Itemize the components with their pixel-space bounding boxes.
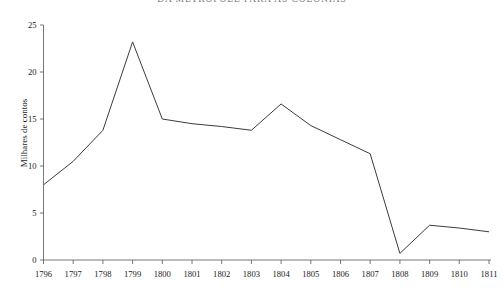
y-tick-label: 0 [32,255,36,265]
plot-area: 0510152025 17961797179817991800180118021… [0,0,504,294]
x-tick-label: 1798 [94,269,111,279]
series-polyline [44,42,490,254]
x-tick-label: 1801 [183,269,200,279]
x-tick-label: 1803 [243,269,260,279]
x-tick-label: 1809 [421,269,438,279]
chart-page: DA METRÓPOLE PARA AS COLÓNIAS Milhares d… [0,0,504,294]
x-tick-label: 1802 [213,269,230,279]
x-tick-label: 1807 [362,269,380,279]
x-tick-label: 1805 [302,269,319,279]
y-tick-label: 10 [28,161,37,171]
y-axis: 0510152025 [28,20,44,265]
x-tick-label: 1797 [65,269,83,279]
x-tick-label: 1806 [332,269,350,279]
y-tick-label: 25 [28,20,37,30]
chart-svg: 0510152025 17961797179817991800180118021… [0,0,504,294]
x-tick-label: 1810 [451,269,468,279]
y-tick-label: 5 [32,208,36,218]
y-tick-label: 20 [28,67,37,77]
x-tick-label: 1811 [481,269,498,279]
x-axis: 1796179717981799180018011802180318041805… [35,260,498,279]
x-tick-label: 1796 [35,269,53,279]
x-tick-label: 1800 [154,269,171,279]
x-tick-label: 1799 [124,269,141,279]
data-series [44,42,490,254]
y-tick-label: 15 [28,114,37,124]
x-tick-label: 1808 [391,269,408,279]
x-tick-label: 1804 [273,269,291,279]
